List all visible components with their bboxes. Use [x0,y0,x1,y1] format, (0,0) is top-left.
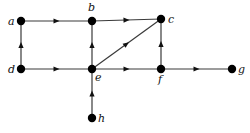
node-label-d: d [8,63,15,76]
arrowhead-icon [54,18,60,23]
node-label-a: a [8,15,15,28]
arrowhead-icon [124,66,130,71]
node-label-h: h [98,112,105,125]
node-label-f: f [157,73,164,86]
node-h [88,114,96,122]
graph-diagram: abcdefgh [0,0,250,133]
directed-graph-canvas: abcdefgh [0,0,250,133]
node-label-c: c [168,13,174,26]
arrowhead-icon [158,41,163,47]
arrowhead-icon [18,42,23,48]
node-c [157,15,165,23]
arrowhead-icon [54,66,60,71]
arrowhead-icon [89,42,94,48]
node-f [157,65,165,73]
arrowhead-icon [89,91,94,97]
arrowhead-icon [123,42,129,48]
node-g [228,65,236,73]
arrowhead-icon [194,66,200,71]
node-a [17,17,25,25]
arrowhead-icon [123,17,129,22]
node-label-g: g [238,63,245,76]
node-d [17,65,25,73]
node-b [88,17,96,25]
node-label-e: e [95,71,102,84]
node-label-b: b [88,1,95,14]
